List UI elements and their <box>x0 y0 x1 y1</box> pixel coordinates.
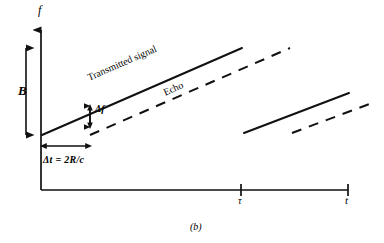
delta-t-arrow <box>40 143 92 149</box>
delta-t-label: Δt = 2R/c <box>43 155 84 165</box>
bandwidth-label: B <box>18 84 27 97</box>
delta-f-label: Δf <box>95 104 105 114</box>
x-axis-label: t <box>345 195 348 206</box>
y-axis-label: f <box>38 4 41 16</box>
transmitted-signal-line <box>42 48 349 135</box>
diagram-canvas <box>0 0 384 243</box>
x-axis <box>41 184 348 196</box>
delta-f-arrow <box>87 104 93 129</box>
figure-container: f t τ B Δf Δt = 2R/c Transmitted signal … <box>0 0 384 243</box>
figure-caption: (b) <box>190 222 202 232</box>
tau-tick-label: τ <box>238 196 242 206</box>
